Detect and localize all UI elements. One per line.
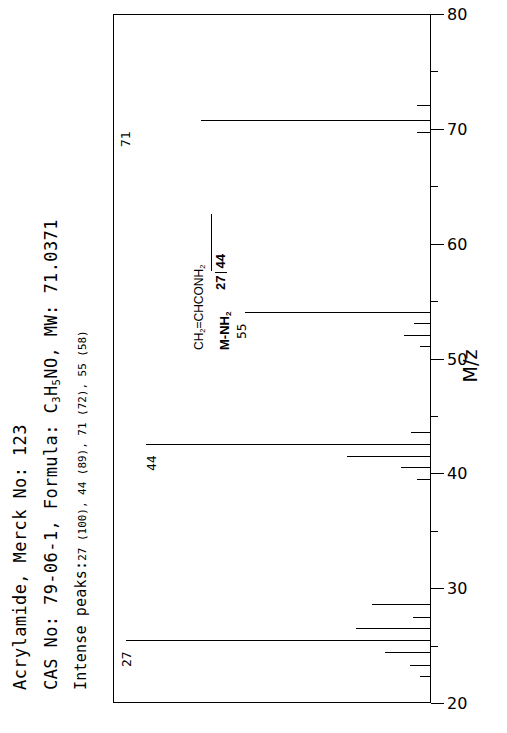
intense-peaks-label: Intense peaks:: [72, 561, 90, 690]
axis-label-40: 40: [447, 464, 467, 483]
axis-label-60: 60: [447, 234, 467, 253]
axis-label-70: 70: [447, 119, 467, 138]
structure-part-a: CH: [192, 333, 206, 350]
peak-line-55: [245, 312, 430, 313]
fragment-pair-rule: [211, 214, 212, 271]
structure-annotation: CH2=CHCONH2: [192, 265, 207, 350]
peak-line-24: [420, 676, 430, 677]
fragment-pair-left: 27: [213, 276, 228, 290]
peak-line-29: [413, 617, 430, 618]
peak-line-27: [126, 640, 430, 641]
axis-label-20: 20: [447, 694, 467, 713]
formula-suffix-mw: NO, MW: 71.0371: [41, 219, 61, 379]
peak-label-71: 71: [118, 131, 133, 147]
compound-formula-line: CAS No: 79-06-1, Formula: C3H5NO, MW: 71…: [41, 219, 62, 690]
structure-sub-a: 2: [198, 329, 207, 333]
axis-label-80: 80: [447, 5, 467, 24]
formula-hydrogen: H: [41, 385, 61, 396]
fragment-pair-annotation: 2744: [213, 254, 228, 290]
formula-subscript-carbon: 3: [50, 396, 62, 403]
axis-tick-55: [431, 301, 438, 302]
m-minus-nh2-label: M-NH: [217, 316, 232, 350]
peak-line-25: [410, 665, 430, 666]
peak-line-42: [401, 467, 430, 468]
peak-line-44: [146, 444, 430, 445]
axis-tick-20: [431, 703, 444, 704]
fragment-pair-divider: [215, 272, 227, 273]
peak-line-30: [372, 604, 430, 605]
peak-line-72: [417, 105, 430, 106]
peak-label-55: 55: [234, 323, 249, 339]
axis-label-30: 30: [447, 579, 467, 598]
mass-spectrum-plot: 71 55 44 27 CH2=CHCONH2 2744 M-NH2: [113, 14, 431, 703]
peak-line-52: [420, 346, 430, 347]
mz-axis: 80 70 60 50 40 30 20: [431, 14, 432, 703]
axis-tick-65: [431, 186, 438, 187]
structure-sub-b: 2: [198, 265, 207, 269]
intense-peaks-values: 27 (100), 44 (89), 71 (72), 55 (58): [76, 330, 89, 560]
axis-tick-45: [431, 416, 438, 417]
intense-peaks-line: Intense peaks:27 (100), 44 (89), 71 (72)…: [72, 330, 90, 690]
axis-tick-30: [431, 588, 444, 589]
page-title: Acrylamide, Merck No: 123: [10, 424, 30, 690]
axis-tick-50: [431, 359, 444, 360]
axis-tick-80: [431, 14, 444, 15]
m-minus-nh2-sub: 2: [224, 312, 233, 316]
peak-line-43: [347, 456, 430, 457]
structure-part-b: =CHCONH: [192, 269, 206, 329]
peak-line-26: [385, 652, 430, 653]
peak-line-45: [411, 432, 430, 433]
peak-label-44: 44: [144, 455, 159, 471]
axis-tick-35: [431, 531, 438, 532]
formula-subscript-hydrogen: 5: [50, 379, 62, 386]
peak-line-53: [404, 335, 430, 336]
axis-tick-25: [431, 646, 438, 647]
axis-tick-40: [431, 473, 444, 474]
axis-title-mz: M/z: [459, 350, 481, 383]
axis-tick-75: [431, 71, 438, 72]
axis-tick-60: [431, 244, 444, 245]
axis-tick-70: [431, 129, 444, 130]
m-minus-nh2-annotation: M-NH2: [217, 312, 233, 350]
cas-formula-prefix: CAS No: 79-06-1, Formula: C: [41, 403, 61, 690]
peak-line-54: [414, 323, 430, 324]
peak-line-28: [356, 628, 430, 629]
peak-line-70: [417, 132, 430, 133]
fragment-pair-right: 44: [213, 254, 228, 268]
peak-line-41: [417, 479, 430, 480]
peak-line-71: [201, 120, 430, 121]
peak-label-27: 27: [119, 651, 134, 667]
